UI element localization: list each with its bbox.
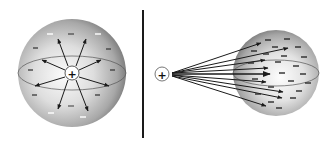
right-point-charge-symbol: + [157, 69, 166, 82]
left-sphere-group: + [18, 19, 126, 127]
right-sphere [233, 30, 319, 116]
field-lines-diagram: + [0, 0, 333, 146]
right-sphere-group: + [155, 30, 319, 116]
left-center-charge-symbol: + [67, 68, 76, 81]
